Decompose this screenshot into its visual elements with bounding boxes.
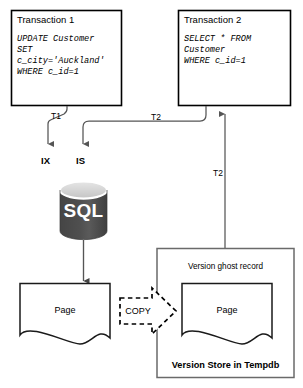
connector-t2-to-is xyxy=(83,106,206,144)
transaction-1-title: Transaction 1 xyxy=(17,14,74,25)
lock-label-is: IS xyxy=(76,155,85,166)
version-store-title: Version Store in Tempdb xyxy=(160,360,291,371)
source-page-label: Page xyxy=(20,305,110,316)
edge-label-t1: T1 xyxy=(51,111,61,121)
edge-label-t2-lock: T2 xyxy=(151,112,161,122)
transaction-1-sql: UPDATE Customer SET c_city='Auckland' WH… xyxy=(17,34,105,78)
lock-label-ix: IX xyxy=(41,155,50,166)
version-page-label: Page xyxy=(182,305,272,316)
sql-database-label: SQL xyxy=(61,200,106,222)
version-ghost-record-label: Version ghost record xyxy=(162,262,289,272)
transaction-2-title: Transaction 2 xyxy=(184,14,241,25)
copy-arrow-label: COPY xyxy=(120,306,156,317)
transaction-2-sql: SELECT * FROM Customer WHERE c_id=1 xyxy=(184,34,251,67)
diagram-canvas: Transaction 1 UPDATE Customer SET c_city… xyxy=(0,0,303,388)
edge-label-t2-version: T2 xyxy=(213,168,223,178)
